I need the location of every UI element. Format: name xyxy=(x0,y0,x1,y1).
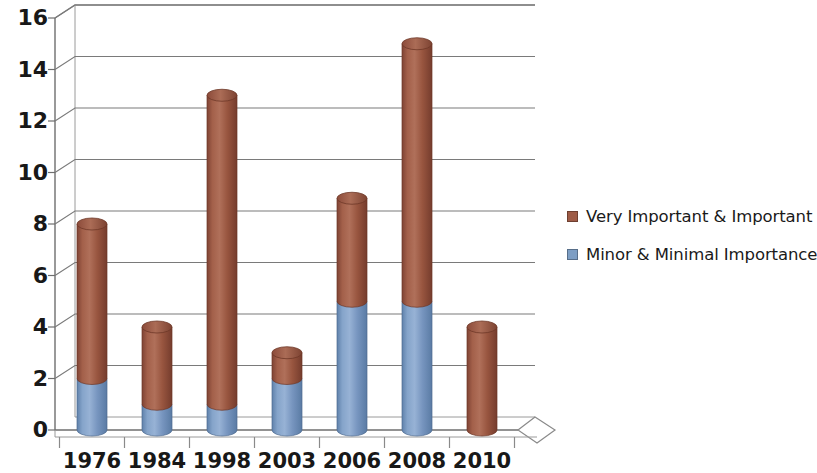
legend-label-important: Very Important & Important xyxy=(586,207,812,226)
legend-label-minor: Minor & Minimal Importance xyxy=(586,245,817,264)
legend-item-minor: Minor & Minimal Importance xyxy=(567,239,811,270)
x-axis-tick-label: 2010 xyxy=(442,451,522,472)
legend-item-important: Very Important & Important xyxy=(567,201,811,232)
legend-swatch-important-icon xyxy=(567,211,578,222)
legend-swatch-minor-icon xyxy=(567,249,578,260)
chart-legend: Very Important & Important Minor & Minim… xyxy=(567,201,811,277)
